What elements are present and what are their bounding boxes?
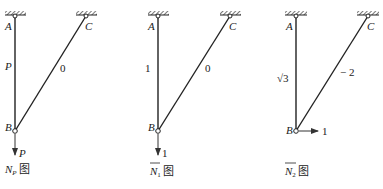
diagram-n1: A C B 1 0 1 N1图 xyxy=(145,11,241,179)
caption-n1: N1图 xyxy=(149,165,174,179)
node-label-c: C xyxy=(229,20,237,32)
force-bc-label: 0 xyxy=(205,62,211,74)
hinge-b xyxy=(13,129,18,134)
node-label-a: A xyxy=(4,20,12,32)
node-label-c: C xyxy=(85,20,93,32)
force-ab-label: √3 xyxy=(277,72,289,84)
load-label: P xyxy=(18,147,26,159)
member-bc xyxy=(15,16,86,131)
node-label-b: B xyxy=(286,124,293,136)
diagram-np: A C B P 0 P NP图 xyxy=(4,11,97,177)
node-label-c: C xyxy=(367,20,375,32)
member-bc xyxy=(296,16,368,131)
load-label: 1 xyxy=(322,125,328,137)
member-bc xyxy=(158,16,230,131)
force-bc-label: 0 xyxy=(60,62,66,74)
force-bc-label: − 2 xyxy=(340,66,354,78)
hinge-a xyxy=(156,14,160,18)
hinge-a xyxy=(294,14,298,18)
hinge-c xyxy=(228,14,232,18)
node-label-a: A xyxy=(147,20,155,32)
caption-np: NP图 xyxy=(4,163,30,177)
hinge-c xyxy=(84,14,88,18)
hinge-c xyxy=(366,14,370,18)
node-label-a: A xyxy=(285,20,293,32)
force-ab-label: 1 xyxy=(145,62,151,74)
caption-n2: N2图 xyxy=(284,165,309,179)
node-label-b: B xyxy=(148,121,155,133)
hinge-a xyxy=(13,14,17,18)
hinge-b xyxy=(294,129,299,134)
node-label-b: B xyxy=(5,121,12,133)
diagram-n2: A C B √3 − 2 1 N2图 xyxy=(277,11,379,179)
hinge-b xyxy=(156,129,161,134)
truss-diagrams: A C B P 0 P NP图 A C B 1 0 1 N1图 xyxy=(0,0,383,189)
load-label: 1 xyxy=(162,147,168,159)
force-ab-label: P xyxy=(4,60,12,72)
